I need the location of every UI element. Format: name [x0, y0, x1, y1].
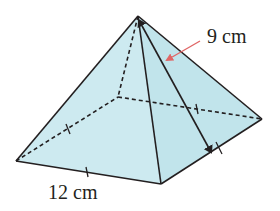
base-edge-label: 12 cm — [48, 181, 98, 203]
slant-height-label: 9 cm — [207, 25, 247, 47]
pyramid-diagram: 9 cm 12 cm — [0, 0, 280, 211]
